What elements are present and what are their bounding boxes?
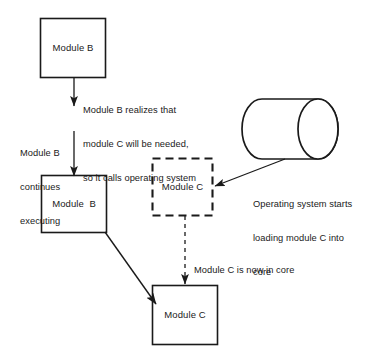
annotation-line: Module B xyxy=(20,148,60,159)
node-label-module-c-solid: Module C xyxy=(152,309,218,320)
node-disk-storage-cylinder xyxy=(242,99,338,159)
annotation-line: Module C is now in core xyxy=(194,265,294,276)
node-label-module-b-top: Module B xyxy=(40,42,106,53)
annotation-call-os: Module B realizes that module C will be … xyxy=(83,82,196,207)
annotation-continues-executing: Module B continues executing xyxy=(20,125,60,250)
annotation-line: continues xyxy=(20,182,60,193)
annotation-line: Operating system starts xyxy=(253,199,352,210)
annotation-line: Module B realizes that xyxy=(83,105,196,116)
annotation-line: executing xyxy=(20,216,60,227)
annotation-line: so it calls operating system xyxy=(83,173,196,184)
annotation-module-c-in-core: Module C is now in core xyxy=(194,242,294,299)
annotation-line: module C will be needed, xyxy=(83,139,196,150)
diagram-canvas: Module B Module B Module C Module C Modu… xyxy=(0,0,382,359)
edge-module-b-calls-module-c xyxy=(105,232,156,304)
